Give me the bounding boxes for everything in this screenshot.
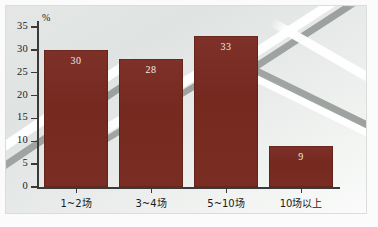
chart-figure: % 05101520253035 3028339 1~2场3~4场5~10场10… (0, 0, 378, 227)
y-axis-tick (31, 49, 38, 50)
y-axis-tick-label: 15 (6, 111, 28, 122)
y-axis-tick (31, 26, 38, 27)
x-axis-category-label: 10场以上 (257, 195, 345, 210)
y-axis-tick-label: 30 (6, 43, 28, 54)
bar-value-label: 28 (119, 64, 183, 75)
bar-value-label: 33 (194, 41, 258, 52)
y-axis-tick-label: 25 (6, 66, 28, 77)
y-axis-unit-label: % (42, 12, 50, 23)
bar[interactable] (119, 59, 183, 187)
y-axis-tick-label: 10 (6, 134, 28, 145)
bar-value-label: 9 (269, 151, 333, 162)
y-axis-tick (31, 118, 38, 119)
y-axis-tick (31, 186, 38, 187)
bar-value-label: 30 (44, 55, 108, 66)
x-axis-tick (301, 187, 302, 193)
bar[interactable] (44, 50, 108, 187)
y-axis-tick (31, 95, 38, 96)
y-axis-tick (31, 141, 38, 142)
bar[interactable] (194, 36, 258, 187)
y-axis-tick (31, 72, 38, 73)
chart-plate: % 05101520253035 3028339 1~2场3~4场5~10场10… (6, 6, 366, 213)
x-axis-tick (151, 187, 152, 193)
x-axis-line (37, 187, 340, 189)
y-axis-tick (31, 163, 38, 164)
y-axis-tick-label: 5 (6, 157, 28, 168)
y-axis-tick-label: 20 (6, 89, 28, 100)
x-axis-tick (76, 187, 77, 193)
y-axis-tick-label: 35 (6, 20, 28, 31)
y-axis-tick-label: 0 (6, 180, 28, 191)
x-axis-tick (226, 187, 227, 193)
plot-area: % 05101520253035 3028339 1~2场3~4场5~10场10… (6, 6, 366, 213)
